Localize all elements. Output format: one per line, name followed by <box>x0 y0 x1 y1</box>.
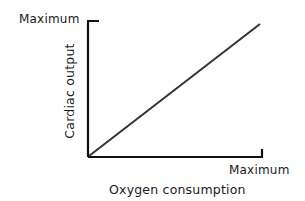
x-axis-title: Oxygen consumption <box>109 184 246 196</box>
y-axis-max-label: Maximum <box>19 13 80 25</box>
x-axis-max-label: Maximum <box>229 164 290 176</box>
x-axis <box>88 149 262 157</box>
data-line <box>89 24 260 156</box>
y-axis-title: Cardiac output <box>64 43 76 138</box>
chart: Maximum Cardiac output Maximum Oxygen co… <box>0 0 305 201</box>
y-axis <box>88 21 99 157</box>
